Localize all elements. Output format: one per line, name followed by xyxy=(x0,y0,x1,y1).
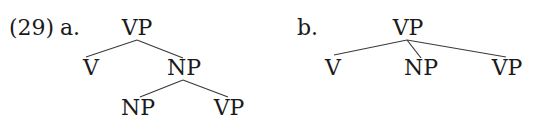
example-number: (29) xyxy=(9,17,54,39)
tree-b-root: VP xyxy=(393,17,424,39)
tree-a-node-np-np: NP xyxy=(121,97,155,119)
tree-a-node-np-vp: VP xyxy=(214,97,245,119)
tree-b-node-vp: VP xyxy=(492,57,523,79)
tree-b-node-np: NP xyxy=(404,57,438,79)
tree-a-node-v: V xyxy=(83,57,99,79)
example-b-label: b. xyxy=(297,17,318,39)
tree-a-root: VP xyxy=(122,17,153,39)
tree-b-node-v: V xyxy=(325,57,341,79)
tree-a-node-np: NP xyxy=(167,57,201,79)
example-a-label: a. xyxy=(60,17,80,39)
branch-b-vp-v xyxy=(334,40,407,55)
tree-branches xyxy=(0,0,537,126)
